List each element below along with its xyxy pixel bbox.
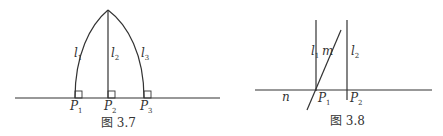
- right-angle-p1: [75, 91, 82, 98]
- caption-fig-3-7: 图 3.7: [101, 116, 136, 130]
- figure-3-8: l1 m l2 n P1 P2 图 3.8: [255, 20, 432, 128]
- label-l3: l3: [141, 46, 149, 62]
- label-p1: P1: [317, 91, 331, 107]
- label-l1: l1: [74, 46, 82, 62]
- diagram-canvas: l1 l2 l3 P1 P2 P3 图 3.7 l1 m l2 n P1 P2 …: [0, 0, 443, 136]
- label-l1: l1: [311, 44, 319, 60]
- label-l2: l2: [111, 46, 119, 62]
- label-p3: P3: [139, 99, 153, 115]
- right-angle-p2: [108, 91, 115, 98]
- figure-3-7: l1 l2 l3 P1 P2 P3 图 3.7: [15, 10, 220, 130]
- label-n: n: [282, 90, 290, 104]
- right-angle-p3: [144, 91, 151, 98]
- caption-fig-3-8: 图 3.8: [330, 114, 365, 128]
- label-p2: P2: [103, 99, 117, 115]
- label-p2: P2: [349, 91, 363, 107]
- label-m: m: [322, 44, 333, 58]
- label-p1: P1: [69, 99, 83, 115]
- label-l2: l2: [351, 44, 359, 60]
